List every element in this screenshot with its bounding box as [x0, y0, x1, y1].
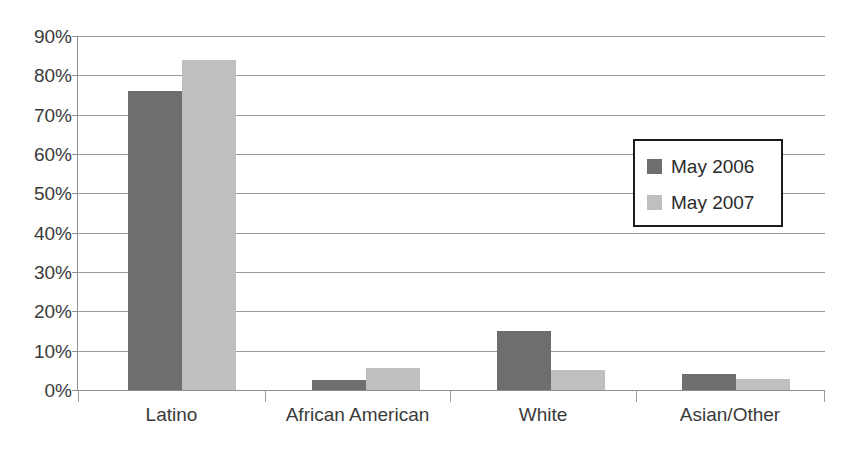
- y-tick-label: 50%: [8, 184, 72, 203]
- legend-label: May 2006: [671, 157, 754, 176]
- legend-label: May 2007: [671, 193, 754, 212]
- bar-african-american-may-2007: [366, 368, 420, 390]
- bar-white-may-2006: [497, 331, 551, 390]
- x-axis-separator: [265, 391, 266, 402]
- bar-chart: 90% 80% 70% 60% 50% 40% 30% 20% 10% 0%: [0, 0, 844, 460]
- x-axis-label-asian-other: Asian/Other: [636, 404, 824, 426]
- legend-item-may-2007: May 2007: [647, 189, 754, 215]
- bar-african-american-may-2006: [312, 380, 366, 390]
- x-axis-separator: [78, 391, 79, 402]
- bar-white-may-2007: [551, 370, 605, 390]
- y-tick-label: 0%: [8, 381, 72, 400]
- x-axis-label-latino: Latino: [78, 404, 265, 426]
- legend-item-may-2006: May 2006: [647, 153, 754, 179]
- legend: May 2006 May 2007: [633, 139, 783, 227]
- y-tick-label: 40%: [8, 224, 72, 243]
- legend-swatch-icon: [647, 195, 662, 210]
- y-tick-label: 70%: [8, 106, 72, 125]
- gridline: [78, 36, 825, 37]
- x-axis-separator: [636, 391, 637, 402]
- x-axis-label-white: White: [450, 404, 636, 426]
- y-tick-label: 60%: [8, 145, 72, 164]
- clipped-title-text: [18, 0, 578, 7]
- x-axis-separator: [450, 391, 451, 402]
- x-axis-separator: [824, 391, 825, 402]
- y-axis: 90% 80% 70% 60% 50% 40% 30% 20% 10% 0%: [0, 0, 72, 460]
- bar-latino-may-2007: [182, 60, 236, 390]
- y-tick-label: 10%: [8, 342, 72, 361]
- y-tick-label: 30%: [8, 263, 72, 282]
- y-tick-label: 90%: [8, 27, 72, 46]
- y-tick-label: 20%: [8, 302, 72, 321]
- bar-asian-other-may-2007: [736, 379, 790, 390]
- x-axis-label-african-american: African American: [265, 404, 450, 426]
- axis-baseline: [78, 390, 825, 391]
- bar-latino-may-2006: [128, 91, 182, 390]
- legend-swatch-icon: [647, 159, 662, 174]
- y-tick-label: 80%: [8, 66, 72, 85]
- bar-asian-other-may-2006: [682, 374, 736, 390]
